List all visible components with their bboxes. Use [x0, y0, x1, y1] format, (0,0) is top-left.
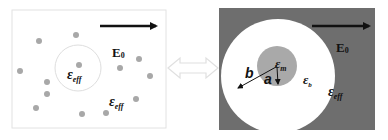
- particle-dot: [44, 79, 50, 85]
- particle-dot: [73, 32, 79, 38]
- particle-dot: [44, 91, 50, 97]
- particle-dot: [136, 56, 142, 62]
- particle-dot: [133, 96, 139, 102]
- particle-dot: [103, 110, 109, 116]
- particle-dot: [36, 38, 42, 44]
- left-panel: E0 εeff εeff: [12, 10, 166, 128]
- particle-dot: [33, 105, 39, 111]
- particle-dot: [79, 111, 85, 117]
- right-panel: E0 εm εb εeff a b: [219, 8, 375, 133]
- particle-dot: [117, 65, 123, 71]
- particle-dot: [147, 73, 153, 79]
- effective-medium-diagram: E0 εeff εeff E0 εm εb εeff a b: [0, 0, 388, 140]
- radius-a-label: a: [264, 71, 272, 87]
- radius-b-label: b: [245, 65, 254, 81]
- double-arrow-connector: [168, 58, 218, 78]
- particle-dot: [76, 62, 82, 68]
- particle-dot: [17, 68, 23, 74]
